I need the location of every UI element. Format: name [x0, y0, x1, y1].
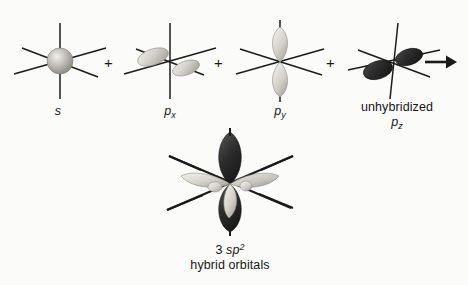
- plus-operator-2: +: [214, 55, 223, 70]
- pz-label-line1: unhybridized: [338, 100, 456, 115]
- orbital-hybridization-figure: s + px: [0, 0, 468, 285]
- plus-glyph: +: [214, 54, 223, 71]
- pz-orbital-label: unhybridized pz: [338, 100, 456, 134]
- s-orbital-diagram: [12, 22, 108, 100]
- pz-label-line2: pz: [338, 115, 456, 134]
- py-orbital-svg: [232, 18, 328, 104]
- py-lobes: [273, 27, 288, 97]
- s-orbital-label: s: [28, 104, 88, 119]
- sp2-caption-line1: 3 sp2: [145, 240, 315, 258]
- s-orbital-sphere: [47, 48, 73, 74]
- plus-operator-1: +: [104, 55, 113, 70]
- yields-arrow: [424, 54, 458, 74]
- sp2-hybrid-svg: [155, 126, 305, 238]
- plus-glyph: +: [326, 54, 335, 71]
- s-orbital-svg: [12, 22, 108, 100]
- sp2-caption-line2: hybrid orbitals: [145, 258, 315, 273]
- py-orbital-label: py: [250, 104, 310, 123]
- pz-label-subscript: z: [398, 121, 403, 131]
- sp2-hybrid-diagram: [155, 126, 305, 238]
- s-orbital-label-text: s: [55, 104, 61, 118]
- sp2-superscript: 2: [239, 242, 244, 252]
- sp2-orbital-name: sp: [226, 243, 239, 257]
- px-orbital-svg: [122, 22, 218, 100]
- sp2-small-node-left: [208, 182, 222, 192]
- sp2-small-node-right: [240, 181, 252, 191]
- py-orbital-diagram: [232, 18, 328, 104]
- sp2-hybrid-label: 3 sp2 hybrid orbitals: [145, 240, 315, 273]
- px-orbital-diagram: [122, 22, 218, 100]
- sp2-count: 3: [215, 243, 222, 257]
- plus-operator-3: +: [326, 55, 335, 70]
- arrow-icon: [424, 54, 458, 70]
- py-label-subscript: y: [281, 110, 286, 120]
- px-label-subscript: x: [171, 110, 176, 120]
- px-orbital-label: px: [140, 104, 200, 123]
- plus-glyph: +: [104, 54, 113, 71]
